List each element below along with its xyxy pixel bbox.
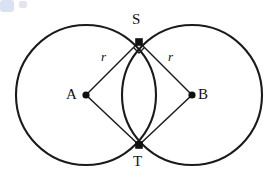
point-label-a: A — [66, 87, 77, 102]
point-label-t: T — [133, 154, 142, 169]
point-dot-S — [135, 38, 143, 46]
segment-B-to-S — [139, 42, 192, 95]
segment-A-to-S — [86, 42, 139, 95]
point-dot-T — [135, 141, 143, 149]
point-dot-B — [188, 91, 195, 98]
radius-label-left: r — [101, 50, 106, 63]
point-label-s: S — [132, 12, 140, 27]
segment-B-to-T — [139, 95, 192, 145]
segment-A-to-T — [86, 95, 139, 145]
radius-label-right: r — [168, 50, 173, 63]
geometry-figure: S T A B r r — [0, 0, 269, 188]
point-dot-A — [82, 91, 89, 98]
point-label-b: B — [198, 87, 208, 102]
